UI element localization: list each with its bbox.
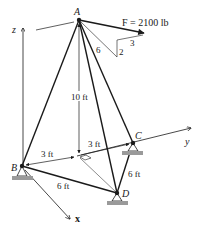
truss-members [22,20,133,193]
joint-c [131,141,135,145]
label-d: D [121,188,130,199]
slope-horizontal: 3 [130,38,135,48]
height-label: 10 ft [71,92,88,102]
label-a: A [73,6,81,17]
reference-line [36,22,74,30]
x-axis: x [25,170,80,224]
slope-vertical: 2 [119,47,124,57]
oc-label: 3 ft [88,139,101,149]
label-b: B [11,162,17,173]
bd-label: 6 ft [57,181,70,191]
y-axis-label: y [184,136,190,147]
slope-hypotenuse: 6 [96,45,101,55]
joint-a [77,18,81,22]
x-axis-label: x [75,213,80,224]
z-axis-label: z [11,24,16,35]
bo-label: 3 ft [41,149,54,159]
truss-diagram: z y x 10 ft 3 ft 3 ft F = 2100 lb 6 2 3 [0,0,199,228]
force-label: F = 2100 lb [122,17,168,28]
joint-b [20,164,24,168]
label-c: C [135,130,142,141]
z-axis: z [11,24,23,166]
cd-label: 6 ft [128,169,141,179]
joint-d [115,191,119,195]
